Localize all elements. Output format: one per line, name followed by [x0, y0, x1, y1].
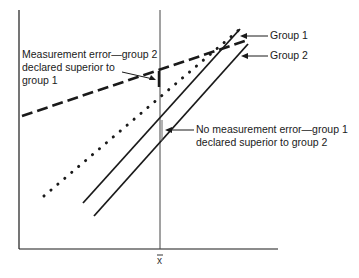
- measurement-error-label-line2: declared superior to: [22, 61, 115, 74]
- error-arrow-icon: [149, 75, 156, 80]
- group1-arrow-icon: [240, 33, 247, 39]
- group1-label: Group 1: [270, 29, 308, 42]
- measurement-error-label-line1: Measurement error—group 2: [22, 48, 157, 61]
- measurement-error-label-line3: group 1: [22, 74, 58, 87]
- group2-arrow-icon: [241, 53, 248, 59]
- no-error-label-line2: declared superior to group 2: [196, 136, 327, 149]
- x-axis-label: x: [157, 255, 162, 266]
- no-error-label-line1: No measurement error—group 1: [196, 123, 348, 136]
- group2-label: Group 2: [270, 49, 308, 62]
